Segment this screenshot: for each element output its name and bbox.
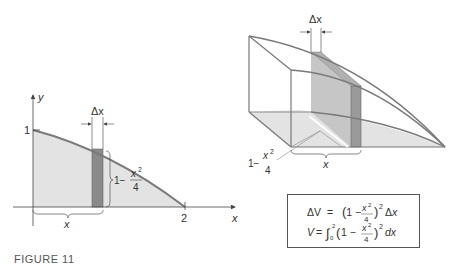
left-plot: y 1 2 x Δx 1− x 2 4 x [13,91,238,230]
strip-height-label-num: x [130,168,137,179]
formula-box [287,194,420,248]
right-solid: Δx x 1− x 2 4 [248,13,445,176]
x-brace [33,210,103,218]
x-axis-label: x [231,212,238,224]
solid-brace-label: x [322,158,329,170]
strip-height-label-exp: 2 [138,166,142,173]
strip-height-label-den: 4 [133,182,139,193]
x-brace-label: x [63,218,70,230]
y-axis-label: y [37,91,45,103]
slab-face [351,86,361,147]
region-under-curve [33,130,185,207]
solid-side-label-den: 4 [265,165,271,176]
figure-caption: FIGURE 11 [14,253,75,265]
solid-x-brace [291,150,361,158]
solid-side-label-prefix: 1− [248,158,260,169]
x-tick-label: 2 [181,212,187,224]
strip-height-label-prefix: 1− [114,175,126,186]
solid-side-label-exp: 2 [270,148,274,155]
y-tick-label: 1 [24,124,30,136]
solid-strip-width-label: Δx [309,13,322,25]
solid-side-label-num: x [262,150,269,161]
strip [92,149,103,207]
strip-width-label: Δx [91,105,104,117]
